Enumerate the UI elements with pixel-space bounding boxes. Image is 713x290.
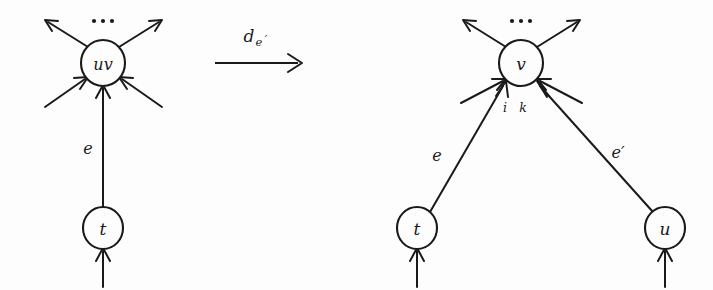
figure-container: uv t e d e ′ [0,0,713,290]
right-node-v[interactable]: v [499,40,543,86]
left-node-t-label: t [100,219,107,239]
left-incoming-lower-left-arrow [45,77,88,107]
left-node-uv-label: uv [93,55,112,74]
right-node-t-label: t [414,219,421,239]
right-node-u-label: u [660,219,671,239]
transformation-label-subscript-prime: ′ [265,32,268,46]
transformation-label-base: d [244,26,255,46]
diagram-canvas: uv t e d e ′ [0,0,713,290]
transformation-arrow: d e ′ [215,26,302,72]
right-outgoing-upper-left-arrow [463,20,506,47]
right-port-label-k: k [519,100,527,115]
left-incoming-lower-right-arrow [119,77,162,107]
left-outgoing-upper-right-arrow [119,20,162,47]
left-graph: uv t e [45,19,162,287]
left-outgoing-upper-left-arrow [45,20,88,47]
right-incoming-below-u-arrow [658,248,672,287]
right-edge-e-prime [537,81,653,212]
right-graph: v t u i k e e′ [397,19,685,287]
right-incoming-below-t-arrow [410,248,424,287]
right-outgoing-upper-right-arrow [537,20,580,47]
left-node-uv[interactable]: uv [81,40,125,86]
left-edge-e [96,85,110,208]
transformation-label-subscript: e [256,35,263,49]
right-node-t[interactable]: t [397,207,437,249]
right-port-label-i: i [503,100,507,115]
left-incoming-below-t-arrow [96,248,110,287]
left-ellipsis [92,19,114,23]
right-node-u[interactable]: u [645,207,685,249]
left-edge-label-e: e [83,139,92,158]
left-node-t[interactable]: t [83,207,123,249]
right-edge-label-e-prime: e′ [611,143,624,162]
right-ellipsis [510,19,532,23]
right-node-v-label: v [516,54,526,74]
right-edge-label-e: e [432,146,441,165]
